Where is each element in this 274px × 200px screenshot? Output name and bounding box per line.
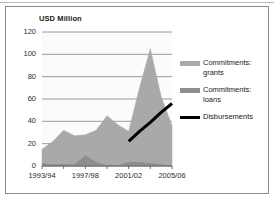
- chart-legend: Commitments: grantsCommitments: loansDis…: [180, 58, 268, 129]
- y-tick-label: 40: [12, 116, 36, 125]
- legend-item: Commitments: loans: [180, 85, 268, 105]
- legend-label: Commitments: grants: [203, 58, 251, 78]
- y-tick-label: 20: [12, 139, 36, 148]
- legend-item: Disbursements: [180, 112, 268, 122]
- y-tick-label: 0: [12, 161, 36, 170]
- x-tick-label: 2001/02: [109, 171, 149, 180]
- legend-label: Disbursements: [203, 112, 253, 122]
- legend-label: Commitments: loans: [203, 85, 251, 105]
- chart-figure: USD Million 020406080100120 1993/941997/…: [0, 0, 274, 200]
- y-tick-label: 100: [12, 49, 36, 58]
- y-tick-label: 80: [12, 72, 36, 81]
- x-tick-label: 1997/98: [65, 171, 105, 180]
- x-tick-label: 1993/94: [22, 171, 62, 180]
- x-tick-label: 2005/06: [152, 171, 192, 180]
- legend-swatch-icon: [180, 61, 200, 66]
- y-tick-label: 120: [12, 27, 36, 36]
- legend-swatch-icon: [180, 116, 200, 119]
- y-tick-label: 60: [12, 94, 36, 103]
- legend-item: Commitments: grants: [180, 58, 268, 78]
- legend-swatch-icon: [180, 88, 200, 93]
